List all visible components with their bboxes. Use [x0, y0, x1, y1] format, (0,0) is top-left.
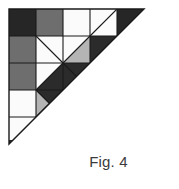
- unit-r3c1-gray-square: [9, 63, 36, 90]
- unit-r1c1-black-square: [9, 9, 36, 36]
- unit-r1c3-white-square: [63, 9, 90, 36]
- quilt-block-diagram: [0, 0, 179, 152]
- figure-container: Fig. 4: [0, 0, 179, 189]
- unit-r1c2-gray-square: [36, 9, 63, 36]
- unit-r2c1-gray-square: [9, 36, 36, 63]
- unit-r4c1-white-square-top: [9, 90, 36, 117]
- figure-caption: Fig. 4: [0, 152, 179, 172]
